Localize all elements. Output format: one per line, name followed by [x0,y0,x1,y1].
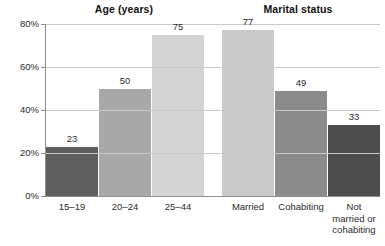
bar [99,89,151,197]
bar [152,35,204,196]
bar-value-label: 49 [275,78,327,88]
category-label-line: 25–44 [143,201,213,213]
gridline-0 [46,196,380,197]
y-tick-mark-0 [41,196,45,197]
gridline-20 [46,153,380,154]
category-label: 25–44 [143,201,213,213]
y-tick-label-40pct: 40% [5,105,39,115]
y-tick-mark-80 [41,24,45,25]
bar-value-label: 33 [328,112,380,122]
bar [328,125,380,196]
category-label: Notmarried orcohabiting [319,201,385,236]
grouped-bar-chart: Age (years) Marital status 0%20%40%60%80… [0,0,385,246]
panel-title-marital: Marital status [222,3,374,15]
bar-value-label: 77 [222,17,274,27]
bar-value-label: 50 [99,76,151,86]
y-tick-mark-20 [41,153,45,154]
y-axis-line [45,24,46,197]
bar [222,30,274,196]
gridline-40 [46,110,380,111]
y-tick-label-20pct: 20% [5,148,39,158]
category-label-line: cohabiting [319,224,385,236]
bar-value-label: 23 [46,134,98,144]
category-label-line: married or [319,213,385,225]
y-tick-label-0pct: 0% [5,191,39,201]
gridline-80 [46,24,380,25]
y-tick-label-80pct: 80% [5,19,39,29]
y-tick-mark-60 [41,67,45,68]
bar [275,91,327,196]
gridline-60 [46,67,380,68]
y-tick-label-60pct: 60% [5,62,39,72]
panel-title-age: Age (years) [46,3,202,15]
plot-area [46,24,380,196]
y-tick-mark-40 [41,110,45,111]
bar-value-label: 75 [152,22,204,32]
category-label-line: Not [319,201,385,213]
